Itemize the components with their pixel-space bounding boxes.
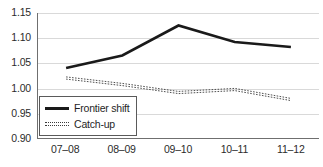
legend-entry-catch-up: Catch-up	[45, 116, 132, 132]
legend: Frontier shift Catch-up	[39, 96, 137, 136]
x-tick-label: 07–08	[37, 142, 93, 164]
x-axis: 07–0808–0909–1010–1111–12	[37, 142, 319, 164]
y-tick-label: 1.10	[5, 32, 31, 43]
x-tick-label: 10–11	[206, 142, 262, 164]
y-axis: 1.151.101.051.000.950.90	[0, 0, 31, 167]
line-chart: 1.151.101.051.000.950.90 07–0808–0909–10…	[0, 0, 323, 167]
series-line-frontier-shift	[66, 26, 291, 69]
y-tick-label: 1.15	[5, 7, 31, 18]
dotted-line-swatch	[45, 119, 69, 129]
x-tick-label: 09–10	[150, 142, 206, 164]
y-tick-label: 0.90	[5, 133, 31, 144]
solid-line-swatch	[45, 103, 69, 113]
x-tick-label: 08–09	[93, 142, 149, 164]
x-tick-label: 11–12	[263, 142, 319, 164]
y-tick-label: 1.00	[5, 83, 31, 94]
legend-label: Frontier shift	[74, 102, 130, 114]
legend-entry-frontier-shift: Frontier shift	[45, 100, 132, 116]
y-tick-label: 0.95	[5, 108, 31, 119]
y-tick-label: 1.05	[5, 57, 31, 68]
legend-label: Catch-up	[74, 118, 115, 130]
